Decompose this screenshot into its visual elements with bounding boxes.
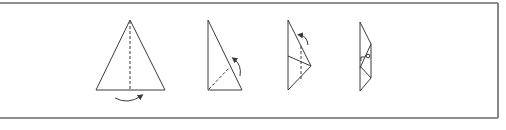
curved-arrow-icon bbox=[234, 59, 240, 76]
curved-arrow-icon bbox=[300, 35, 308, 45]
folding-diagram bbox=[0, 0, 506, 130]
fold-line-dashed bbox=[209, 68, 229, 89]
frame-border bbox=[0, 3, 498, 118]
step-2-right-triangle bbox=[208, 20, 242, 90]
curved-arrow-icon bbox=[115, 96, 141, 101]
step-1-triangle bbox=[96, 20, 165, 101]
diagram-frame bbox=[0, 0, 506, 130]
step-3-folded-shape bbox=[288, 20, 311, 90]
circle-marker-icon bbox=[366, 54, 370, 58]
step-4-narrow-shape bbox=[360, 22, 371, 91]
